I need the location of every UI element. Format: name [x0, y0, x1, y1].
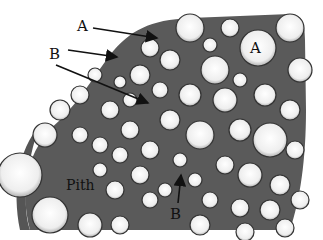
arrow-b1: [68, 50, 117, 57]
label-a-cell: A: [250, 41, 261, 56]
label-pith: Pith: [66, 178, 95, 192]
label-b-bottom: B: [170, 207, 181, 222]
micrograph-figure: A B A Pith B: [0, 0, 323, 240]
tissue-image: [0, 0, 323, 240]
label-b-left: B: [49, 47, 60, 62]
label-a-top: A: [77, 19, 88, 34]
